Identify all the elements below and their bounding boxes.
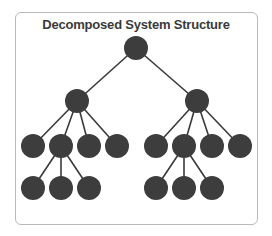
tree-edges [33, 48, 240, 188]
tree-node-level-3 [49, 134, 73, 158]
tree-node-level-1 [124, 36, 148, 60]
tree-node-level-3 [200, 134, 224, 158]
tree-node-level-3 [228, 134, 252, 158]
tree-node-level-4 [21, 176, 45, 200]
tree-node-level-4 [172, 176, 196, 200]
tree-nodes [21, 36, 252, 200]
hierarchy-tree [0, 0, 272, 236]
tree-node-level-4 [144, 176, 168, 200]
tree-node-level-2 [65, 89, 89, 113]
tree-node-level-3 [77, 134, 101, 158]
tree-node-level-4 [49, 176, 73, 200]
tree-node-level-3 [105, 134, 129, 158]
tree-node-level-3 [21, 134, 45, 158]
tree-node-level-3 [144, 134, 168, 158]
tree-edge [136, 48, 197, 101]
tree-node-level-2 [185, 89, 209, 113]
tree-node-level-4 [77, 176, 101, 200]
tree-node-level-4 [200, 176, 224, 200]
tree-node-level-3 [172, 134, 196, 158]
